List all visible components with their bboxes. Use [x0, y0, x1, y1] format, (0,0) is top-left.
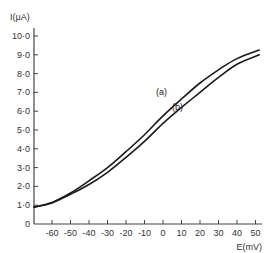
curve-a: [34, 50, 259, 207]
x-tick-label: -60: [45, 228, 58, 238]
y-tick-label: 6·0: [17, 106, 30, 116]
x-tick-label: -30: [101, 228, 114, 238]
x-tick-label: 10: [176, 228, 186, 238]
y-axis-title: I(μA): [10, 12, 30, 22]
x-tick-label: 40: [232, 228, 242, 238]
x-tick-label: -40: [82, 228, 95, 238]
x-tick-label: -10: [138, 228, 151, 238]
curve-label-b: (b): [172, 102, 183, 112]
y-tick-label: 2·0: [17, 181, 30, 191]
y-tick-label: 4·0: [17, 144, 30, 154]
x-tick-label: 0: [160, 228, 165, 238]
x-tick-label: -50: [64, 228, 77, 238]
x-tick-label: -20: [119, 228, 132, 238]
x-axis-title: E(mV): [237, 242, 263, 252]
y-tick-label: 8·0: [17, 69, 30, 79]
y-tick-label: 7·0: [17, 87, 30, 97]
curve-b: [34, 55, 259, 207]
iv-curve-chart: 01·02·03·04·05·06·07·08·09·010·0I(μA) -6…: [0, 0, 269, 253]
curves: [34, 50, 259, 207]
y-tick-label: 9·0: [17, 50, 30, 60]
y-tick-label: 1·0: [17, 200, 30, 210]
x-tick-label: 30: [213, 228, 223, 238]
curve-labels: (a)(b): [156, 87, 183, 112]
y-tick-label: 10·0: [12, 31, 30, 41]
x-tick-label: 50: [250, 228, 260, 238]
y-tick-label: 5·0: [17, 125, 30, 135]
x-axis: -60-50-40-30-20-1001020304050E(mV): [34, 220, 262, 252]
y-axis: 01·02·03·04·05·06·07·08·09·010·0I(μA): [10, 12, 38, 229]
curve-label-a: (a): [156, 87, 167, 97]
y-tick-label: 3·0: [17, 163, 30, 173]
y-tick-label: 0: [25, 219, 30, 229]
x-tick-label: 20: [195, 228, 205, 238]
